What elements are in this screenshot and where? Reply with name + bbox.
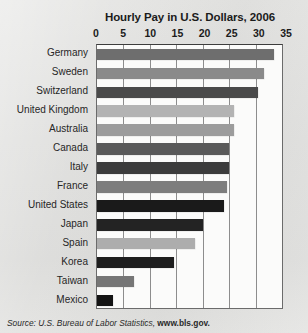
bar (97, 87, 258, 99)
bar-series (97, 45, 282, 308)
bar-row (97, 196, 282, 215)
category-label: Germany (47, 48, 88, 58)
bar-row (97, 140, 282, 159)
x-tick-label: 25 (226, 27, 238, 39)
bar (97, 124, 234, 136)
category-label: Japan (61, 219, 88, 229)
category-label: United Kingdom (17, 105, 88, 115)
category-label: Switzerland (36, 86, 88, 96)
category-label: Canada (53, 143, 88, 153)
category-label: Taiwan (57, 276, 88, 286)
category-label: United States (28, 200, 88, 210)
x-tick-label: 30 (253, 27, 265, 39)
category-label: Sweden (52, 67, 88, 77)
bar-row (97, 159, 282, 178)
bar-row (97, 45, 282, 64)
bar (97, 105, 234, 117)
x-tick-label: 15 (172, 27, 184, 39)
x-tick-label: 0 (93, 27, 99, 39)
x-axis-tick-labels: 05101520253035 (96, 27, 286, 41)
bar-row (97, 102, 282, 121)
bar (97, 295, 113, 307)
x-tick-label: 10 (144, 27, 156, 39)
page-title: Hourly Pay in U.S. Dollars, 2006 (90, 11, 290, 23)
plot-area (96, 44, 283, 309)
source-note: Source: U.S. Bureau of Labor Statistics,… (7, 318, 210, 328)
bar (97, 49, 274, 61)
bar-row (97, 253, 282, 272)
bar (97, 219, 203, 231)
category-label: Spain (62, 238, 88, 248)
bar-row (97, 291, 282, 310)
bar-row (97, 215, 282, 234)
bar (97, 200, 224, 212)
source-url: www.bls.gov. (157, 318, 210, 328)
bar-row (97, 272, 282, 291)
source-prefix: Source: U.S. Bureau of Labor Statistics, (7, 318, 157, 328)
category-label: Korea (61, 257, 88, 267)
bar (97, 181, 227, 193)
category-label: Australia (49, 124, 88, 134)
bar (97, 162, 229, 174)
bar (97, 143, 229, 155)
bar-row (97, 178, 282, 197)
x-tick-label: 5 (120, 27, 126, 39)
bar-row (97, 234, 282, 253)
bar-chart-figure: Hourly Pay in U.S. Dollars, 2006 0510152… (0, 0, 308, 333)
category-label: France (57, 181, 88, 191)
bar (97, 257, 174, 269)
x-tick-label: 20 (199, 27, 211, 39)
bar-row (97, 64, 282, 83)
category-label: Italy (70, 162, 88, 172)
bar (97, 276, 134, 288)
bar (97, 68, 264, 80)
x-tick-label: 35 (280, 27, 292, 39)
category-label: Mexico (56, 295, 88, 305)
bar-row (97, 121, 282, 140)
y-axis-category-labels: GermanySwedenSwitzerlandUnited KingdomAu… (0, 44, 92, 309)
bar-row (97, 83, 282, 102)
bar (97, 238, 195, 250)
